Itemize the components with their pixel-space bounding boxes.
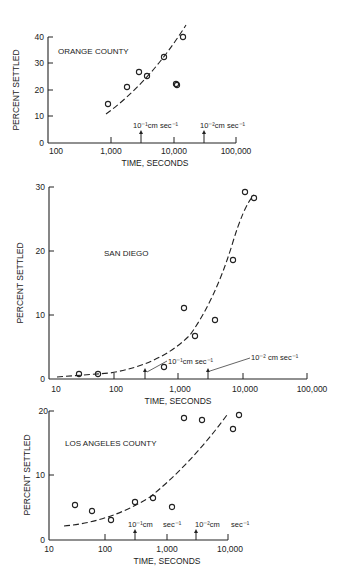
- y-tick: 40: [35, 32, 45, 42]
- y-axis-label: PERCENT SETTLED: [11, 49, 21, 130]
- x-tick: 100,000: [221, 146, 252, 156]
- annotation-1e-1-unit: sec⁻¹: [163, 520, 182, 529]
- y-tick: 10: [36, 310, 46, 320]
- y-tick: 20: [35, 85, 45, 95]
- x-axis-label: TIME, SECONDS: [133, 556, 200, 566]
- x-tick: 10,000: [217, 544, 243, 554]
- annotation-1e-1: 10⁻¹cm sec⁻¹: [133, 121, 179, 130]
- y-tick: 0: [40, 374, 45, 384]
- x-axis-label: TIME, SECONDS: [144, 396, 211, 406]
- x-tick: 10: [44, 544, 54, 554]
- y-tick: 10: [35, 111, 45, 121]
- x-tick: 10: [51, 384, 61, 394]
- x-tick: 1,000: [156, 544, 178, 554]
- x-tick: 100: [109, 384, 123, 394]
- y-tick: 30: [36, 182, 46, 192]
- annotation-1e-1: 10⁻¹cm: [128, 520, 153, 529]
- chart-los-angeles-county: PERCENT SETTLED 0 10 20 10 100 1,000 10,…: [22, 406, 250, 566]
- data-points: [105, 34, 185, 106]
- y-tick: 20: [36, 246, 46, 256]
- x-tick: 100: [49, 146, 63, 156]
- chart-san-diego: PERCENT SETTLED 0 10 20 30 10 100 1,000 …: [15, 182, 328, 406]
- fit-curve: [106, 25, 186, 114]
- y-axis-label: PERCENT SETTLED: [15, 242, 25, 323]
- x-axis-label: TIME, SECONDS: [121, 158, 188, 168]
- data-points: [72, 412, 241, 522]
- annotation-1e-1: 10⁻¹cm sec⁻¹: [168, 357, 214, 366]
- annotation-1e-2: 10⁻²cm sec⁻¹: [200, 121, 246, 130]
- y-tick: 20: [39, 406, 49, 416]
- figure: PERCENT SETTLED 0 10 20 30 40 100 1,000 …: [0, 0, 340, 584]
- x-tick: 10,000: [232, 384, 258, 394]
- fit-curve: [57, 195, 254, 377]
- x-tick: 100,000: [297, 384, 328, 394]
- data-points: [76, 189, 256, 376]
- chart-title: SAN DIEGO: [104, 249, 148, 258]
- chart-title: ORANGE COUNTY: [58, 47, 129, 56]
- x-tick: 1,000: [169, 384, 191, 394]
- chart-title: LOS ANGELES COUNTY: [65, 439, 157, 448]
- y-tick: 30: [35, 58, 45, 68]
- x-tick: 100: [98, 544, 112, 554]
- x-tick: 1,000: [100, 146, 122, 156]
- annotation-1e-2: 10⁻²cm: [195, 520, 220, 529]
- y-tick: 10: [36, 470, 46, 480]
- y-tick: 0: [39, 138, 44, 148]
- annotation-1e-2: 10⁻² cm sec⁻¹: [251, 353, 299, 362]
- annotation-1e-2-unit: sec⁻¹: [231, 520, 250, 529]
- y-axis-label: PERCENT SETTLED: [22, 434, 32, 515]
- chart-orange-county: PERCENT SETTLED 0 10 20 30 40 100 1,000 …: [11, 25, 252, 168]
- x-tick: 10,000: [161, 146, 187, 156]
- fit-curve: [64, 415, 227, 526]
